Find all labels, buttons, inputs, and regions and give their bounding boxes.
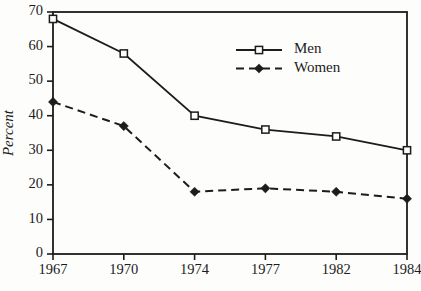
y-axis-title: Percent (0, 109, 16, 157)
x-tick-label: 1970 (109, 261, 138, 277)
y-tick-label: 20 (29, 175, 44, 191)
y-tick-label: 50 (29, 71, 44, 87)
data-point-marker-men (191, 112, 198, 119)
y-tick-label: 30 (29, 141, 44, 157)
chart-canvas: 010203040506070196719701974197719821984P… (0, 0, 421, 291)
figure-background (0, 0, 421, 291)
x-tick-label: 1977 (251, 261, 280, 277)
y-tick-label: 0 (36, 244, 43, 260)
legend-label-men: Men (294, 40, 322, 56)
y-tick-label: 40 (29, 106, 44, 122)
legend-marker-men (255, 46, 262, 53)
data-point-marker-men (120, 50, 127, 57)
data-point-marker-men (403, 147, 410, 154)
chart-figure: 010203040506070196719701974197719821984P… (0, 0, 421, 291)
x-tick-label: 1974 (180, 261, 210, 277)
x-tick-label: 1984 (393, 261, 421, 277)
y-tick-label: 70 (29, 2, 44, 18)
x-tick-label: 1982 (322, 261, 351, 277)
data-point-marker-men (333, 133, 340, 140)
legend-label-women: Women (294, 59, 341, 75)
data-point-marker-men (262, 126, 269, 133)
x-tick-label: 1967 (39, 261, 68, 277)
y-tick-label: 60 (29, 37, 44, 53)
y-tick-label: 10 (29, 210, 44, 226)
data-point-marker-men (49, 15, 56, 22)
